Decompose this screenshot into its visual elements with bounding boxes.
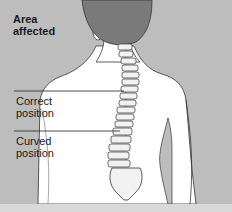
head-hair	[82, 0, 152, 45]
scoliosis-diagram: Area affected Correct position Curved po…	[0, 0, 232, 212]
area-affected-label: Area affected	[13, 13, 73, 37]
curved-position-label: Curved position	[16, 135, 76, 159]
title-line-1: Area	[13, 13, 73, 25]
correct-position-label: Correct position	[16, 95, 76, 119]
curved-line-1: Curved	[16, 135, 76, 147]
correct-line-1: Correct	[16, 95, 76, 107]
correct-line-2: position	[16, 107, 76, 119]
bottom-border	[0, 204, 232, 212]
title-line-2: affected	[13, 25, 73, 37]
curved-line-2: position	[16, 147, 76, 159]
